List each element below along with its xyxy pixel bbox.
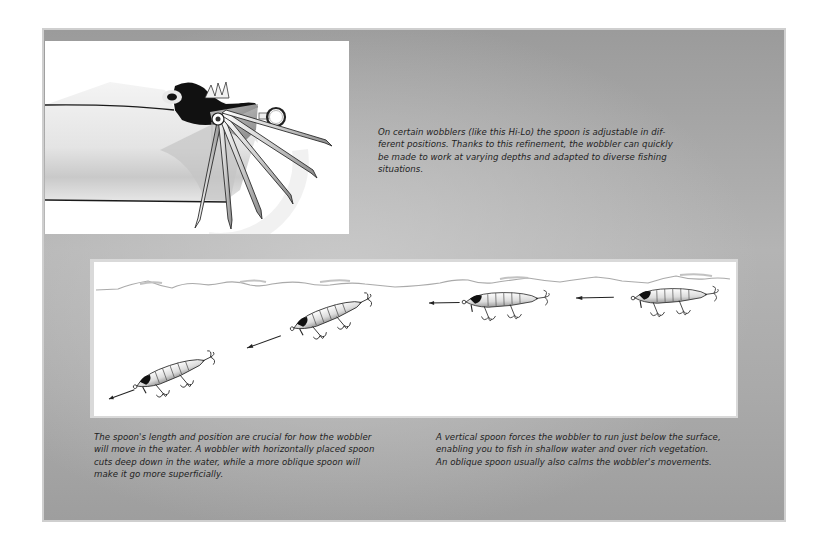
bottom-right-caption: A vertical spoon forces the wobbler to r… (436, 431, 721, 468)
bottom-left-caption-line: The spoon's length and position are cruc… (94, 431, 374, 443)
bottom-left-caption-line: cuts deep down in the water, while a mor… (94, 456, 374, 468)
top-caption: On certain wobblers (like this Hi-Lo) th… (378, 126, 673, 176)
direction-arrow-icon (429, 300, 460, 305)
bottom-right-caption-line: enabling you to fish in shallow water an… (436, 443, 721, 455)
bottom-right-caption-line: An oblique spoon usually also calms the … (436, 456, 721, 468)
bottom-left-caption: The spoon's length and position are cruc… (94, 431, 374, 481)
top-caption-line: On certain wobblers (like this Hi-Lo) th… (378, 126, 673, 138)
wobbler-depth-illustration (94, 262, 736, 416)
adjustable-spoon-fan-icon (45, 41, 349, 234)
direction-arrow-icon (108, 388, 135, 401)
bottom-left-caption-line: make it go more superficially. (94, 468, 374, 480)
bottom-right-caption-line: A vertical spoon forces the wobbler to r… (436, 431, 721, 443)
wobbler-lure-surface (631, 286, 719, 318)
direction-arrow-icon (246, 334, 281, 350)
bottom-left-caption-line: will move in the water. A wobbler with h… (94, 443, 374, 455)
top-caption-line: ferent positions. Thanks to this refinem… (378, 138, 673, 150)
top-caption-line: be made to work at varying depths and ad… (378, 151, 673, 163)
adjustable-spoon-illustration (45, 41, 349, 234)
top-caption-line: situations. (378, 163, 673, 175)
direction-arrow-icon (576, 295, 614, 300)
water-surface-waves (96, 274, 730, 290)
wobbler-lure-mid (287, 291, 379, 348)
wobbler-lure-shallow (462, 290, 550, 322)
wobbler-lure-deep (130, 349, 222, 406)
